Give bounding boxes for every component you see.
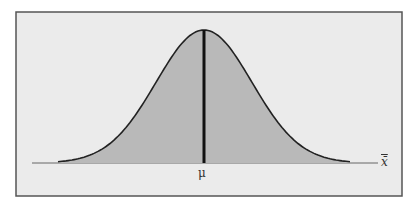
normal-distribution-figure	[0, 0, 414, 210]
x-axis-label: x̄	[381, 155, 388, 169]
mean-label: μ	[198, 166, 206, 180]
